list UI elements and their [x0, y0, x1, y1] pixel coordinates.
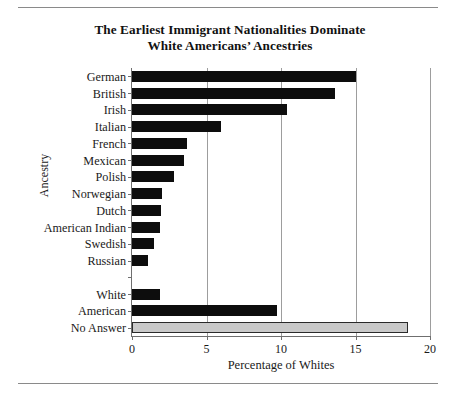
bar: [132, 289, 160, 300]
y-tick-label: American: [0, 305, 126, 317]
bar-row: [132, 272, 430, 283]
bar-row: Russian: [132, 255, 430, 266]
bar-row: German: [132, 71, 430, 82]
y-tick-label: Irish: [0, 104, 126, 116]
y-tick-label: American Indian: [0, 222, 126, 234]
bar-row: Swedish: [132, 238, 430, 249]
bar-row: American: [132, 305, 430, 316]
bar: [132, 238, 154, 249]
rule-top: [18, 7, 438, 8]
x-tick: [281, 336, 282, 340]
x-tick-label: 10: [261, 342, 301, 357]
y-tick-label: No Answer: [0, 322, 126, 334]
x-tick-label: 5: [187, 342, 227, 357]
bar: [132, 155, 184, 166]
x-tick: [356, 336, 357, 340]
y-tick-label: Mexican: [0, 155, 126, 167]
bar: [132, 71, 356, 82]
y-tick-label: Italian: [0, 121, 126, 133]
bar: [132, 104, 287, 115]
bar: [132, 88, 335, 99]
y-tick-label: Polish: [0, 171, 126, 183]
bar: [132, 305, 277, 316]
bar-row: Mexican: [132, 155, 430, 166]
bar: [132, 322, 408, 333]
bar-row: Irish: [132, 104, 430, 115]
chart-title-line-2: White Americans’ Ancestries: [40, 38, 420, 54]
plot-area: 05101520GermanBritishIrishItalianFrenchM…: [132, 68, 430, 336]
bar-row: French: [132, 138, 430, 149]
y-tick-label: White: [0, 289, 126, 301]
x-tick: [207, 336, 208, 340]
rule-bottom: [18, 383, 438, 384]
x-gridline: [430, 68, 431, 336]
bar-row: British: [132, 88, 430, 99]
y-tick-label: Swedish: [0, 238, 126, 250]
y-tick-label: British: [0, 88, 126, 100]
bar: [132, 188, 162, 199]
bar-row: American Indian: [132, 222, 430, 233]
y-tick-label: Russian: [0, 255, 126, 267]
figure: The Earliest Immigrant Nationalities Dom…: [0, 0, 455, 398]
bar: [132, 222, 160, 233]
bar: [132, 138, 187, 149]
y-tick-label: Dutch: [0, 205, 126, 217]
x-tick: [132, 336, 133, 340]
bar-row: No Answer: [132, 322, 430, 333]
chart-title: The Earliest Immigrant Nationalities Dom…: [40, 22, 420, 54]
bar-row: Dutch: [132, 205, 430, 216]
x-tick-label: 20: [410, 342, 450, 357]
bar: [132, 171, 174, 182]
y-tick: [128, 277, 132, 278]
bar-row: Norwegian: [132, 188, 430, 199]
x-tick: [430, 336, 431, 340]
x-axis-title: Percentage of Whites: [132, 358, 430, 373]
bar-row: White: [132, 289, 430, 300]
bar: [132, 205, 161, 216]
y-tick-label: Norwegian: [0, 188, 126, 200]
bar: [132, 255, 148, 266]
x-tick-label: 0: [112, 342, 152, 357]
y-tick-label: German: [0, 71, 126, 83]
y-tick-label: French: [0, 138, 126, 150]
chart-title-line-1: The Earliest Immigrant Nationalities Dom…: [40, 22, 420, 38]
x-tick-label: 15: [336, 342, 376, 357]
bar-row: Italian: [132, 121, 430, 132]
bar-row: Polish: [132, 171, 430, 182]
bar: [132, 121, 221, 132]
